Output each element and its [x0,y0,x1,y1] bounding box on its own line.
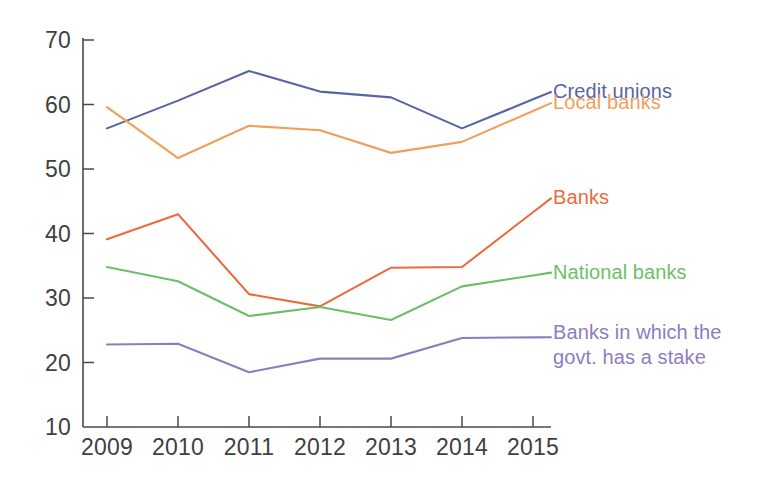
series-line-local-banks [107,103,551,158]
chart-canvas: 10203040506070 2009201020112012201320142… [0,0,758,478]
legend-label-national-banks: National banks [553,261,687,283]
x-tick-label: 2015 [507,434,559,460]
y-tick-label: 10 [45,414,71,440]
legend-label-banks-in-which-the-govt-has-a-stake-line2: govt. has a stake [553,346,706,368]
y-tick-label: 30 [45,285,71,311]
x-tick-label: 2013 [365,434,417,460]
series-line-credit-unions [107,71,551,128]
x-tick-label: 2012 [294,434,346,460]
legend-label-local-banks: Local banks [553,91,661,113]
legend-group: Credit unionsLocal banksBanksNational ba… [553,80,722,368]
legend-label-banks-in-which-the-govt-has-a-stake: Banks in which the [553,321,722,343]
y-tick-label: 40 [45,221,71,247]
x-tick-label: 2011 [224,434,274,460]
series-line-national-banks [107,267,551,320]
line-chart: 10203040506070 2009201020112012201320142… [0,0,758,478]
series-group [107,71,551,372]
y-tick-label: 20 [45,350,71,376]
y-tick-label: 50 [45,156,71,182]
series-line-banks-in-which-the-govt-has-a-stake [107,337,551,372]
x-axis-group: 2009201020112012201320142015 [81,416,559,460]
legend-label-banks: Banks [553,186,609,208]
x-tick-label: 2009 [81,434,133,460]
y-tick-label: 60 [45,92,71,118]
series-line-banks [107,198,551,306]
x-tick-label: 2010 [152,434,204,460]
x-tick-label: 2014 [436,434,488,460]
y-axis-group: 10203040506070 [45,27,94,440]
y-tick-label: 70 [45,27,71,53]
